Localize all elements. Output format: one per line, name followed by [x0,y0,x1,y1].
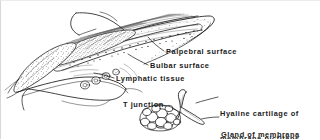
label-gland-line1: Gland of membrana [221,131,300,139]
label-palpebral-surface: Palpebral surface [166,48,237,56]
label-t-junction: T junction [123,101,164,109]
label-lymphatic-tissue: Lymphatic tissue [116,75,185,83]
label-bulbar-surface: Bulbar surface [150,62,209,70]
label-gland-membrana-nictitans: Gland of membrana nictitans [221,115,300,140]
